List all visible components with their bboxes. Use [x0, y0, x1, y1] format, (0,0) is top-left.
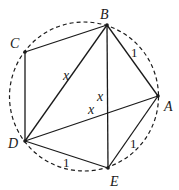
segment-ab: [107, 25, 158, 96]
edge-label-ab: 1: [131, 45, 138, 60]
vertex-label-a: A: [163, 99, 173, 114]
segment-bd: [25, 25, 107, 141]
edge-label-de: 1: [63, 155, 70, 170]
edge-label-da: x: [87, 102, 95, 117]
edges-group: [25, 25, 158, 168]
segment-bc: [25, 25, 107, 52]
vertex-point-b: [105, 23, 109, 27]
segment-ea: [108, 96, 158, 168]
edge-label-be: x: [96, 89, 104, 104]
edge-label-bd: x: [62, 68, 70, 83]
vertex-label-c: C: [10, 36, 20, 51]
segment-be: [107, 25, 108, 168]
edge-label-ea: 1: [130, 136, 137, 151]
vertex-label-d: D: [7, 136, 18, 151]
vertex-point-c: [23, 50, 27, 54]
vertex-label-b: B: [100, 7, 109, 22]
vertex-point-a: [156, 94, 160, 98]
vertex-point-d: [23, 139, 27, 143]
vertex-point-e: [106, 166, 110, 170]
vertex-label-e: E: [109, 174, 119, 189]
edge-labels-group: 111xxx: [62, 45, 138, 170]
cyclic-pentagon-diagram: ABCDE 111xxx: [0, 0, 179, 190]
